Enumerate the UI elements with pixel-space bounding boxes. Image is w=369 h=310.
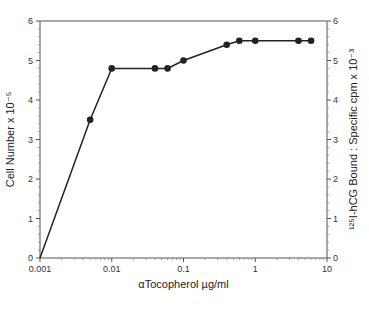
data-point-marker xyxy=(252,37,259,44)
y-right-tick-label: 2 xyxy=(333,174,338,184)
y-right-tick-label: 3 xyxy=(333,135,338,145)
y-right-tick-label: 6 xyxy=(333,16,338,26)
data-point-marker xyxy=(152,65,159,72)
data-point-marker xyxy=(108,65,115,72)
data-point-marker xyxy=(295,37,302,44)
data-point-marker xyxy=(180,57,187,64)
data-point-marker xyxy=(236,37,243,44)
y-axis-label: Cell Number x 10⁻⁵ xyxy=(4,92,16,188)
y-right-tick-label: 1 xyxy=(333,214,338,224)
y-tick-label: 2 xyxy=(28,174,33,184)
y-tick-label: 1 xyxy=(28,214,33,224)
y-tick-label: 0 xyxy=(28,253,33,263)
x-tick-label: 0.01 xyxy=(103,264,121,274)
data-line xyxy=(40,41,311,258)
x-tick-label: 0.001 xyxy=(29,264,52,274)
y-right-axis-label: ¹²⁵I-hCG Bound : Specific cpm x 10⁻³ xyxy=(347,49,359,230)
data-point-marker xyxy=(223,41,230,48)
y-tick-label: 6 xyxy=(28,16,33,26)
data-point-marker xyxy=(308,37,315,44)
line-chart: 001122334455660.0010.010.1110αTocopherol… xyxy=(0,0,369,310)
y-tick-label: 4 xyxy=(28,95,33,105)
y-tick-label: 3 xyxy=(28,135,33,145)
chart-container: 001122334455660.0010.010.1110αTocopherol… xyxy=(0,0,369,310)
data-point-marker xyxy=(87,116,94,123)
x-tick-label: 1 xyxy=(253,264,258,274)
y-right-tick-label: 5 xyxy=(333,56,338,66)
x-axis-label: αTocopherol µg/ml xyxy=(138,278,228,290)
data-point-marker xyxy=(164,65,171,72)
x-tick-label: 0.1 xyxy=(177,264,190,274)
y-right-tick-label: 0 xyxy=(333,253,338,263)
y-tick-label: 5 xyxy=(28,56,33,66)
x-tick-label: 10 xyxy=(322,264,332,274)
y-right-tick-label: 4 xyxy=(333,95,338,105)
